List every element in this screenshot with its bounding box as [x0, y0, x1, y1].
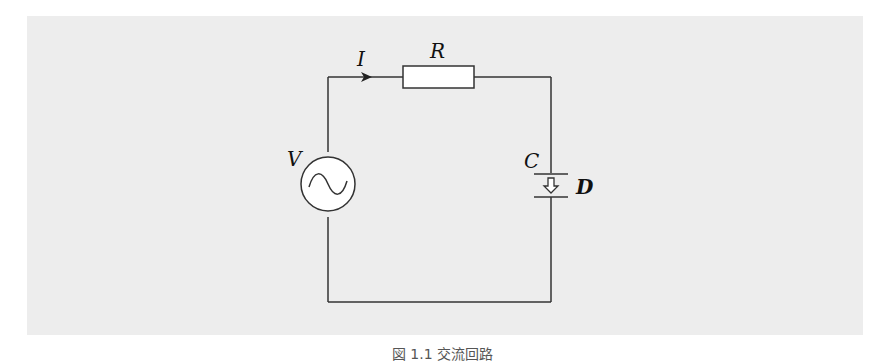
label-source: V: [287, 147, 304, 171]
label-current: I: [356, 47, 366, 71]
label-capacitor: C: [524, 149, 539, 173]
label-displacement: D: [575, 175, 594, 199]
displacement-arrow-icon: [544, 178, 558, 193]
figure-caption: 図 1.1 交流回路: [0, 343, 885, 363]
label-resistor: R: [429, 39, 445, 63]
resistor: [403, 66, 474, 88]
